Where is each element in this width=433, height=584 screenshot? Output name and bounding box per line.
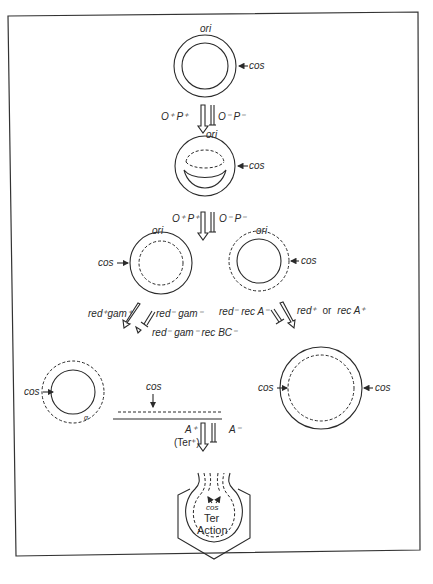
step2-left-label: O⁺ P⁺ [172, 213, 200, 224]
branch-right-b: red⁺ or rec A⁺ [297, 300, 366, 317]
lambda-dna-replication-diagram: ori cos O⁺ P⁺ O⁻ P⁻ ori cos O⁺ P⁺ O⁻ P⁻ … [0, 0, 433, 584]
step2-arrows: O⁺ P⁺ O⁻ P⁻ [172, 212, 247, 240]
cos-label: cos [206, 503, 218, 512]
step4-arrows: A⁺ (Ter⁺) A⁻ [174, 423, 242, 451]
stage5-phage-head: cos Ter Action [178, 473, 250, 559]
step2-right-label: O⁻ P⁻ [219, 213, 247, 224]
cos-linear-label: cos [146, 381, 162, 392]
branch-right-arrows: red⁻ rec A⁻ red⁺ or rec A⁺ [219, 300, 366, 328]
ori-label: ori [152, 225, 164, 236]
stage3-right-circle: ori cos [229, 225, 317, 291]
branch-left-c: red⁻ gam⁻ rec BC⁻ [152, 327, 238, 338]
small-hollow-arrow-icon [136, 327, 141, 333]
stage1-circle: ori cos [174, 23, 265, 97]
stage4-left-rolling-circle: cos α cos [24, 361, 222, 423]
cos-label: cos [249, 160, 265, 171]
step4-right-label: A⁻ [228, 424, 242, 435]
ori-label: ori [200, 23, 212, 34]
cos-left-label: cos [258, 382, 274, 393]
ter-label: Ter [204, 512, 220, 524]
ori-label: ori [256, 225, 268, 236]
hollow-arrow-icon [198, 212, 208, 240]
branch-left-b: red⁻ gam⁻ [156, 308, 204, 319]
cos-right-label: cos [375, 382, 391, 393]
stage4-right-circle: cos cos [258, 347, 391, 429]
step1-arrows: O⁺ P⁺ O⁻ P⁻ [161, 105, 246, 133]
branch-left-a: red⁺gam⁺ [88, 308, 133, 319]
cos-label: cos [249, 60, 265, 71]
step4-left-top: A⁺ [184, 424, 198, 435]
stage2-circle: ori cos [175, 129, 265, 196]
branch-left-arrows: red⁺gam⁺ red⁻ gam⁻ red⁻ gam⁻ rec BC⁻ [88, 303, 238, 338]
action-label: Action [197, 524, 228, 536]
step1-left-label: O⁺ P⁺ [161, 111, 189, 122]
cos-label: cos [24, 386, 40, 397]
alpha-label: α [84, 414, 89, 421]
cos-label: cos [98, 257, 114, 268]
stage3-left-circle: ori cos [98, 225, 192, 294]
figure-frame [8, 12, 420, 556]
step4-left-bottom: (Ter⁺) [174, 437, 200, 448]
cos-label: cos [301, 255, 317, 266]
step1-right-label: O⁻ P⁻ [218, 111, 246, 122]
branch-right-a: red⁻ rec A⁻ [219, 306, 270, 317]
hollow-arrow-icon [280, 302, 295, 328]
